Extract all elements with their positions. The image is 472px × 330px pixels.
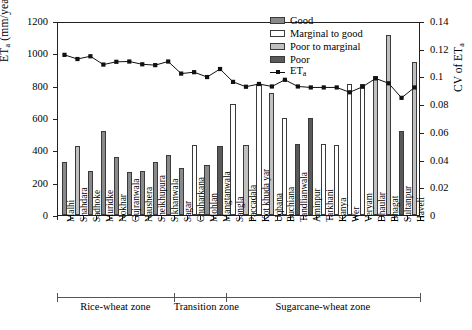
- x-axis-label: Tarkhani: [326, 189, 335, 222]
- y-tick-label: 400: [0, 146, 48, 157]
- x-tick-mark: [57, 216, 58, 220]
- x-axis-label: Haveli: [417, 197, 426, 222]
- legend-swatch: [270, 43, 285, 50]
- x-axis-label: Wer: [352, 207, 361, 222]
- x-axis-label: Naushera: [145, 187, 154, 222]
- x-axis-label: Sangla: [236, 197, 245, 222]
- legend-swatch: [270, 30, 285, 37]
- y-tick-label: 0: [0, 211, 48, 222]
- x-axis-label: Bhagat: [391, 196, 400, 222]
- y-tick-label: 1200: [0, 17, 48, 28]
- zone-axis-line: [57, 297, 420, 298]
- x-axis-label: Gujranwala: [132, 179, 141, 222]
- legend-item: Marginal to good: [270, 28, 363, 40]
- x-axis-label: Mangtanwala: [223, 171, 232, 222]
- legend-item: Poor to marginal: [270, 41, 363, 53]
- x-axis-label: Sikhanwala: [171, 179, 180, 222]
- legend-line-marker: [270, 69, 285, 76]
- x-axis-label: Nokhar: [119, 194, 128, 222]
- y-tick-label-right: 0.06: [430, 128, 472, 139]
- legend-item: Good: [270, 15, 363, 27]
- legend-swatch: [270, 17, 285, 24]
- y-tick-label: 200: [0, 178, 48, 189]
- x-axis-label: Kanya: [339, 198, 348, 222]
- chart-figure: ETa (mm/year) CV of ETa 0200400600800100…: [0, 0, 472, 330]
- zone-label: Sugarcane-wheat zone: [226, 301, 420, 312]
- x-axis-label: Dhaular: [378, 192, 387, 222]
- y-tick-label-right: 0.1: [430, 72, 472, 83]
- x-axis-label: Sagar: [184, 201, 193, 222]
- y-tick-label-right: 0.02: [430, 183, 472, 194]
- legend: GoodMarginal to goodPoor to marginalPoor…: [270, 15, 363, 80]
- legend-label: Marginal to good: [290, 28, 363, 40]
- x-axis-label: Sultanpur: [404, 186, 413, 222]
- legend-label: Poor: [290, 54, 310, 66]
- zone-label: Transition zone: [174, 301, 226, 312]
- x-axis-label: Buchiana: [287, 187, 296, 222]
- x-axis-label: Muridke: [106, 190, 115, 222]
- legend-swatch: [270, 56, 285, 63]
- x-axis-label: Veryam: [365, 193, 374, 222]
- legend-item: Poor: [270, 54, 363, 66]
- x-axis-label: Sheikhupura: [158, 175, 167, 222]
- y-tick-label-right: 0.14: [430, 17, 472, 28]
- x-axis-label: Mohlan: [210, 193, 219, 222]
- y-tick-label-right: 0.12: [430, 44, 472, 55]
- y-tick-label-right: 0.04: [430, 155, 472, 166]
- x-axis-label: Malhi: [67, 200, 76, 222]
- y-tick-label: 800: [0, 81, 48, 92]
- x-axis-label: Aminpur: [313, 188, 322, 222]
- zone-label: Rice-wheat zone: [57, 301, 174, 312]
- legend-item-line: ETa: [270, 67, 363, 79]
- x-axis-label: Uqbana: [275, 193, 284, 222]
- legend-label: Good: [290, 15, 313, 27]
- x-axis-label: Chuharkana: [197, 177, 206, 222]
- legend-label: Poor to marginal: [290, 41, 360, 53]
- x-axis-label: Paccadala: [249, 185, 258, 222]
- plot-area: [57, 22, 420, 216]
- x-axis-label: Kot khuda yar: [262, 169, 271, 222]
- eta-line-series: [58, 23, 421, 217]
- y-tick-label-right: 0: [430, 211, 472, 222]
- x-axis-label: Shahdara: [80, 187, 89, 222]
- y-tick-label: 600: [0, 114, 48, 125]
- zone-tick: [420, 293, 421, 302]
- y-tick-label-right: 0.08: [430, 100, 472, 111]
- x-axis-label: Tandlianwala: [300, 172, 309, 222]
- x-axis-label: Sadhoke: [93, 190, 102, 222]
- legend-label: ETa: [290, 65, 306, 80]
- y-tick-label: 1000: [0, 49, 48, 60]
